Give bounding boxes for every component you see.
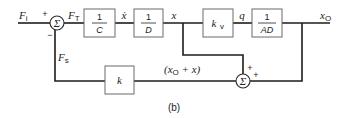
label-x0: xO <box>319 9 331 23</box>
label-x: x <box>171 9 177 21</box>
numerator: 1 <box>97 12 102 22</box>
label-Fi: Fi <box>18 9 28 23</box>
label-Ft: FT <box>67 9 80 23</box>
block-kv: k v <box>203 9 233 37</box>
figure-caption: (b) <box>168 102 180 113</box>
label-feedback-open: (x <box>164 63 173 76</box>
label-Fs: Fs <box>57 51 69 65</box>
block-label-sub: v <box>220 22 224 31</box>
sigma-symbol: Σ <box>53 17 61 29</box>
summing-junction-2: Σ + + <box>236 63 259 88</box>
block-rect <box>203 9 233 37</box>
label-Fi-sub: i <box>26 14 28 23</box>
label-Fs-sub: s <box>65 56 69 65</box>
block-one-over-ad: 1 AD <box>252 9 282 37</box>
numerator: 1 <box>146 12 151 22</box>
plus-sign: + <box>42 9 47 19</box>
label-x0-sub: O <box>325 14 331 23</box>
block-one-over-d: 1 D <box>134 9 163 37</box>
signal-labels: Fi FT Fs ẋ x q xO (xO + x) <box>18 9 331 77</box>
label-x0-plus-x: (xO + x) <box>164 63 201 77</box>
block-diagram: Σ + − Σ + + 1 C 1 D k v 1 AD k <box>0 0 348 118</box>
label-xdot: ẋ <box>121 9 127 21</box>
denominator: C <box>96 25 103 35</box>
denominator: D <box>145 25 152 35</box>
plus-sign: + <box>247 63 252 73</box>
label-q: q <box>239 9 245 21</box>
plus-sign: + <box>253 70 258 80</box>
summing-junction-1: Σ + − <box>42 9 64 40</box>
minus-sign: − <box>47 30 52 40</box>
block-k: k <box>105 66 134 94</box>
label-Ft-sub: T <box>75 14 80 23</box>
numerator: 1 <box>264 12 269 22</box>
denominator: AD <box>260 25 274 35</box>
block-one-over-c: 1 C <box>84 9 115 37</box>
sigma-symbol: Σ <box>239 75 247 87</box>
label-feedback-rest: + x) <box>179 63 201 76</box>
